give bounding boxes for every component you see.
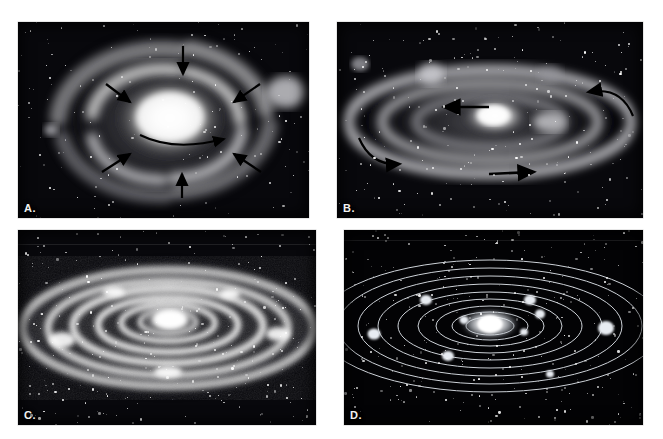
star (447, 145, 448, 146)
star (368, 323, 369, 324)
star (281, 138, 283, 140)
star (240, 351, 242, 353)
star (640, 59, 642, 61)
star (80, 85, 81, 86)
star (409, 306, 410, 307)
star (523, 350, 524, 351)
star (282, 205, 284, 207)
star (367, 259, 369, 261)
star (502, 181, 503, 182)
star (216, 288, 218, 290)
star (261, 256, 262, 257)
star (137, 30, 138, 31)
star (443, 105, 445, 107)
star (418, 305, 420, 307)
star (217, 335, 219, 337)
star (620, 71, 622, 73)
star (387, 237, 389, 239)
star (446, 114, 447, 115)
star (450, 250, 452, 252)
star (564, 22, 566, 24)
star (448, 278, 449, 279)
star (453, 398, 454, 399)
star (439, 204, 441, 206)
star (29, 393, 31, 395)
star (639, 417, 641, 419)
star (453, 298, 454, 299)
star (530, 70, 532, 72)
star (43, 245, 45, 247)
star (564, 181, 566, 183)
star (587, 393, 588, 394)
star (446, 358, 447, 359)
star (87, 281, 89, 283)
star (112, 201, 114, 203)
panel-d: D. (344, 230, 643, 425)
star (205, 231, 206, 232)
star (61, 167, 62, 168)
star (127, 408, 128, 409)
star (267, 384, 269, 386)
star (45, 385, 47, 387)
star (70, 70, 71, 71)
star (380, 390, 382, 392)
star (489, 150, 490, 151)
star (460, 410, 461, 411)
star (77, 422, 78, 423)
star (408, 97, 409, 98)
star (438, 33, 440, 35)
star (200, 124, 201, 125)
star (558, 213, 560, 215)
star (25, 32, 26, 33)
star (58, 152, 60, 154)
star (90, 156, 92, 158)
star (51, 84, 52, 85)
star (257, 234, 259, 236)
star (69, 353, 71, 355)
star (466, 278, 468, 280)
star (403, 401, 405, 403)
star (179, 78, 180, 79)
star (390, 386, 391, 387)
star (524, 250, 525, 251)
star (488, 358, 489, 359)
star (230, 394, 231, 395)
star (301, 398, 302, 399)
star (92, 388, 95, 391)
star (502, 368, 504, 370)
star (266, 395, 268, 397)
star (398, 190, 400, 192)
star (228, 213, 229, 214)
star (149, 47, 150, 48)
star (393, 87, 395, 89)
star (215, 84, 217, 86)
star (569, 116, 570, 117)
star (192, 81, 194, 83)
star (297, 347, 298, 348)
star (521, 376, 523, 378)
star (212, 111, 213, 112)
star (491, 148, 493, 150)
star (628, 134, 631, 137)
star (365, 61, 367, 63)
star (210, 132, 211, 133)
star (549, 282, 550, 283)
star (404, 345, 406, 347)
star (257, 281, 259, 283)
star (160, 366, 161, 367)
star (284, 321, 285, 322)
star (529, 163, 531, 165)
star (313, 249, 315, 251)
star (62, 349, 63, 350)
star (37, 237, 39, 239)
star (254, 47, 256, 49)
star (393, 267, 394, 268)
star (275, 44, 276, 45)
star (598, 356, 599, 357)
star (112, 250, 113, 251)
star (188, 262, 190, 264)
star (381, 266, 382, 267)
star (156, 232, 157, 233)
star (115, 346, 116, 347)
star (494, 48, 496, 50)
